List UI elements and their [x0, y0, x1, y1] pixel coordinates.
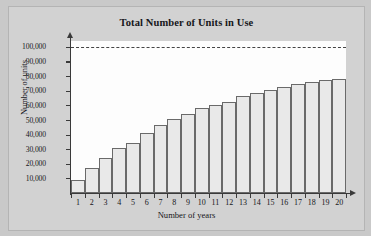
x-tick-label: 20 — [331, 198, 347, 207]
bar — [181, 114, 195, 193]
y-tick — [66, 61, 71, 62]
bar — [167, 119, 181, 193]
bar — [264, 90, 278, 193]
bar — [319, 80, 333, 193]
y-tick-label: 70,000 — [26, 86, 46, 95]
y-axis-arrowhead — [67, 32, 73, 38]
bar — [332, 79, 346, 193]
y-tick — [66, 149, 71, 150]
y-tick — [66, 47, 71, 48]
bar — [236, 96, 250, 193]
y-tick-label: 10,000 — [26, 174, 46, 183]
y-tick — [66, 91, 71, 92]
y-tick — [66, 178, 71, 179]
bar — [305, 82, 319, 193]
bar — [85, 168, 99, 193]
bar — [291, 84, 305, 193]
y-tick — [66, 76, 71, 77]
y-tick-label: 90,000 — [26, 57, 46, 66]
bar — [195, 108, 209, 193]
y-tick — [66, 164, 71, 165]
x-axis-arrowhead — [350, 190, 356, 196]
bar — [126, 143, 140, 193]
bar — [99, 158, 113, 193]
bar — [154, 125, 168, 193]
asymptote-line — [71, 47, 346, 48]
x-tick — [71, 194, 72, 199]
y-tick — [66, 105, 71, 106]
bar — [277, 87, 291, 193]
y-tick-label: 40,000 — [26, 130, 46, 139]
y-tick — [66, 135, 71, 136]
bar — [140, 133, 154, 193]
y-tick-label: 30,000 — [26, 145, 46, 154]
y-tick-label: 60,000 — [26, 101, 46, 110]
bar — [112, 148, 126, 193]
x-axis-title: Number of years — [9, 210, 364, 220]
bar — [71, 180, 85, 193]
y-tick-label: 100,000 — [22, 42, 46, 51]
y-tick-label: 20,000 — [26, 159, 46, 168]
chart-figure: Total Number of Units in Use Number of u… — [8, 6, 365, 231]
bar — [250, 93, 264, 193]
bar — [222, 102, 236, 193]
y-tick — [66, 120, 71, 121]
chart-title: Total Number of Units in Use — [9, 17, 364, 28]
y-tick-label: 80,000 — [26, 72, 46, 81]
y-tick-label: 50,000 — [26, 116, 46, 125]
bar — [209, 105, 223, 193]
